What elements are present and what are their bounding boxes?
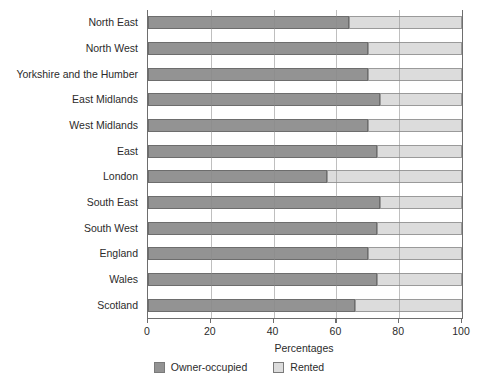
bar-segment (368, 247, 462, 260)
bar-row (148, 273, 462, 286)
stacked-bar-chart: North EastNorth WestYorkshire and the Hu… (0, 0, 478, 380)
x-axis-tick (398, 318, 399, 323)
x-axis-tick-label: 0 (144, 325, 150, 337)
plot-area (147, 10, 463, 319)
category-label: England (99, 248, 138, 259)
x-axis-tick-label: 40 (267, 325, 279, 337)
bar-segment (368, 42, 462, 55)
bar-segment (377, 273, 462, 286)
bar-segment (148, 16, 349, 29)
bar-segment (368, 68, 462, 81)
bar-segment (349, 16, 462, 29)
category-label: East (117, 146, 138, 157)
bar-segment (148, 222, 377, 235)
category-label: East Midlands (72, 94, 138, 105)
bar-segment (148, 93, 380, 106)
x-axis-tick-label: 20 (204, 325, 216, 337)
x-axis-tick-label: 60 (330, 325, 342, 337)
category-label: London (103, 171, 138, 182)
chart-legend: Owner-occupiedRented (0, 361, 478, 373)
bar-segment (148, 145, 377, 158)
legend-swatch (273, 362, 284, 373)
x-axis-tick (210, 318, 211, 323)
gridline-40 (274, 10, 275, 318)
bar-segment (377, 222, 462, 235)
bar-row (148, 42, 462, 55)
bar-segment (148, 42, 368, 55)
bar-row (148, 16, 462, 29)
category-label: North East (88, 17, 138, 28)
bar-segment (380, 196, 462, 209)
category-label: Yorkshire and the Humber (16, 69, 138, 80)
bar-segment (148, 68, 368, 81)
bar-row (148, 222, 462, 235)
category-label: Scotland (97, 300, 138, 311)
bar-segment (148, 299, 355, 312)
bar-row (148, 196, 462, 209)
x-axis-tick-label: 100 (452, 325, 470, 337)
category-axis-labels: North EastNorth WestYorkshire and the Hu… (0, 10, 143, 318)
bar-segment (377, 145, 462, 158)
category-label: North West (86, 43, 138, 54)
bar-row (148, 68, 462, 81)
x-axis-tick (273, 318, 274, 323)
bar-row (148, 299, 462, 312)
bar-segment (368, 119, 462, 132)
gridline-80 (399, 10, 400, 318)
bar-row (148, 145, 462, 158)
bar-segment (148, 273, 377, 286)
bar-segment (380, 93, 462, 106)
bar-segment (148, 196, 380, 209)
legend-label: Rented (290, 361, 324, 373)
bar-row (148, 119, 462, 132)
bar-row (148, 93, 462, 106)
bar-row (148, 247, 462, 260)
x-axis-tick (335, 318, 336, 323)
category-label: South West (84, 223, 138, 234)
x-axis-tick (461, 318, 462, 323)
gridline-60 (336, 10, 337, 318)
bar-segment (148, 119, 368, 132)
x-axis-tick-label: 80 (392, 325, 404, 337)
x-axis-title: Percentages (147, 342, 461, 354)
category-label: South East (87, 197, 138, 208)
bar-segment (148, 247, 368, 260)
category-label: West Midlands (69, 120, 138, 131)
legend-item: Owner-occupied (154, 361, 247, 373)
bar-segment (327, 170, 462, 183)
legend-item: Rented (273, 361, 324, 373)
legend-swatch (154, 362, 165, 373)
x-axis-tick (147, 318, 148, 323)
bar-segment (148, 170, 327, 183)
legend-label: Owner-occupied (171, 361, 247, 373)
bar-row (148, 170, 462, 183)
bar-segment (355, 299, 462, 312)
gridline-20 (211, 10, 212, 318)
category-label: Wales (109, 274, 138, 285)
